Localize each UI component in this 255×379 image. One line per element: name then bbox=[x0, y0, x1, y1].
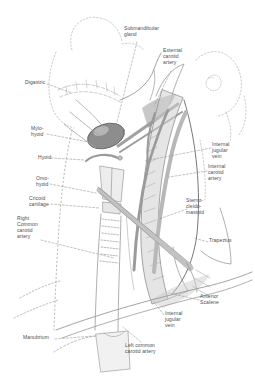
anatomical-figure: Submandibular gland External carotid art… bbox=[0, 0, 255, 379]
leader-cricoid-cartilage bbox=[51, 204, 99, 208]
leader-sternocleidomastoid bbox=[159, 209, 187, 219]
label-omo-hyoid: Omo- hyoid bbox=[36, 176, 49, 188]
leader-omo-hyoid bbox=[50, 184, 96, 193]
leader-digastric bbox=[47, 84, 72, 93]
leader-submandibular-gland bbox=[116, 42, 137, 126]
label-digastric: Digastric bbox=[25, 80, 45, 86]
label-external-carotid-artery: External carotid artery bbox=[163, 48, 182, 66]
label-sternocleidomastoid: Sterno- cleido- mastoid bbox=[186, 198, 204, 216]
label-internal-jugular-vein-upper: Internal jugular vein bbox=[212, 142, 229, 160]
label-hyoid: Hyoid bbox=[38, 155, 51, 161]
label-left-common-carotid-artery: Left common carotid artery bbox=[125, 343, 156, 355]
submandibular-gland-shape bbox=[84, 119, 128, 154]
label-mylo-hyoid: Mylo- hyoid bbox=[31, 126, 44, 138]
label-internal-carotid-artery: Internal carotid artery bbox=[208, 164, 225, 182]
hyoid-bone bbox=[86, 155, 122, 161]
label-anterior-scalene: Anterior Scalene bbox=[200, 294, 219, 306]
label-right-common-carotid-artery: Right Common carotid artery bbox=[17, 216, 38, 240]
label-cricoid-cartilage: Cricoid cartilage bbox=[29, 196, 49, 208]
leader-internal-carotid bbox=[169, 171, 207, 177]
neck-illustration bbox=[0, 0, 255, 379]
label-internal-jugular-vein-lower: Internal jugular vein bbox=[165, 311, 182, 329]
label-manubrium: Manubrium bbox=[23, 335, 49, 341]
leader-hyoid bbox=[51, 158, 85, 160]
label-submandibular-gland: Submandibular gland bbox=[124, 26, 159, 38]
label-trapezius: Trapezius bbox=[209, 238, 232, 244]
leader-right-common-carotid bbox=[41, 240, 114, 258]
